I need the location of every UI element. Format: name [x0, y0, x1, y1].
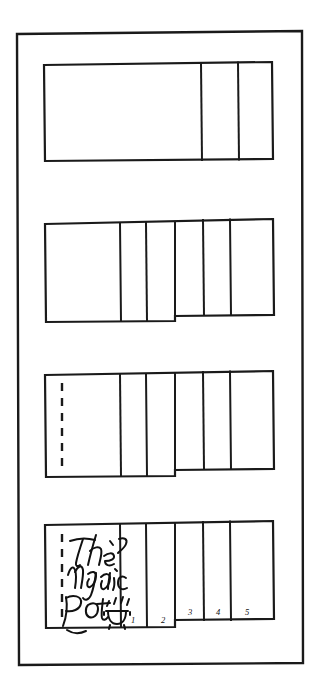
step-3-folded-with-fold-line	[45, 371, 274, 477]
frame-border	[17, 31, 303, 665]
step-4-divider-e	[230, 522, 231, 621]
page-number-5: 5	[245, 607, 249, 617]
step-2-divider-d	[203, 220, 204, 315]
step-4-divider-b	[146, 524, 147, 627]
booklet-assembly-diagram: 1 2 3 4 5	[0, 0, 318, 688]
step-2-folded-stepped	[45, 219, 274, 322]
page-number-4: 4	[216, 607, 221, 617]
step-1-divider-b	[238, 63, 239, 160]
step-3-divider-b	[146, 374, 147, 476]
step-3-divider-d	[203, 372, 204, 469]
step-3-divider-e	[230, 372, 231, 470]
step-2-sheet-outline	[45, 219, 274, 322]
step-2-divider-b	[146, 223, 147, 321]
step-1-divider-a	[201, 63, 202, 160]
outer-frame	[17, 31, 303, 665]
step-1-flat-sheet	[44, 62, 273, 161]
step-3-sheet-outline	[45, 371, 274, 477]
sketch-canvas: The Magic Pot Four-step hand-drawn diagr…	[0, 0, 318, 688]
page-number-3: 3	[187, 607, 192, 617]
step-2-divider-e	[230, 220, 231, 316]
steam-marks-icon	[107, 597, 129, 606]
page-number-2: 2	[161, 615, 166, 625]
step-4-sheet-outline	[45, 521, 274, 628]
step-4-finished-booklet: 1 2 3 4 5	[45, 521, 274, 633]
handwritten-word-the	[70, 535, 127, 566]
step-3-divider-a	[120, 374, 121, 476]
page-number-1: 1	[131, 615, 135, 625]
cooking-pot-icon	[104, 597, 130, 629]
step-2-divider-a	[120, 223, 121, 321]
step-4-divider-d	[203, 522, 204, 620]
handwritten-word-magic	[68, 566, 127, 599]
